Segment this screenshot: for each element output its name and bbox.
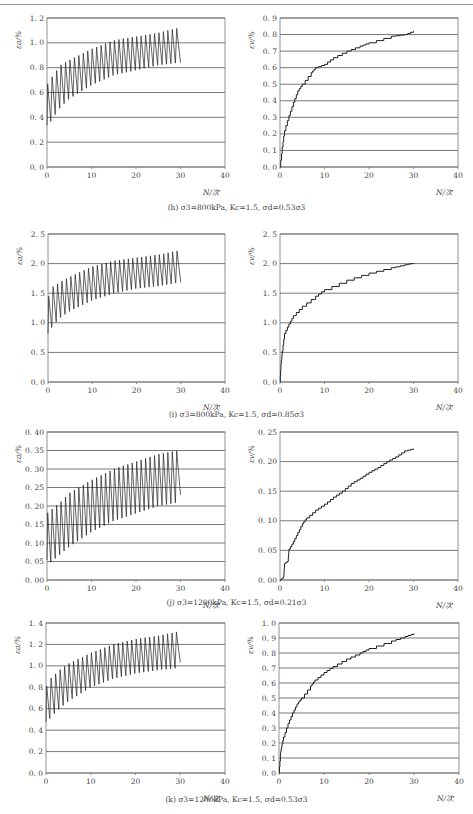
y-axis-label: εv/%: [247, 247, 256, 265]
y-axis-label: εa/%: [14, 31, 23, 49]
y-tick-label: 1. 0: [263, 318, 278, 327]
y-tick-label: 0. 5: [262, 694, 277, 703]
y-tick-label: 2. 5: [31, 230, 46, 239]
y-tick-label: 0. 20: [25, 502, 44, 511]
y-tick-label: 2. 0: [263, 259, 278, 268]
y-tick-label: 0. 05: [258, 546, 277, 555]
y-tick-label: 0. 1: [262, 754, 276, 763]
y-axis-label: εv/%: [247, 31, 256, 49]
x-tick-label: 0: [278, 386, 283, 395]
y-tick-label: 1. 0: [29, 661, 44, 670]
y-tick-label: 0. 05: [25, 557, 44, 566]
x-tick-label: 20: [131, 171, 141, 180]
plot-frame: [46, 623, 225, 773]
y-tick-label: 0. 10: [25, 539, 44, 548]
chart-k-left: 0. 00. 20. 40. 60. 81. 01. 21. 401020304…: [6, 613, 239, 809]
x-tick-label: 40: [453, 584, 463, 593]
series-line: [47, 451, 181, 562]
y-tick-label: 0. 25: [25, 483, 44, 492]
series-line: [279, 634, 414, 774]
y-tick-label: 2. 0: [31, 259, 46, 268]
caption-j: (j) σ3=1200kPa, Kc=1.5, σd=0.21σ3: [0, 598, 473, 607]
y-tick-label: 0. 15: [25, 520, 44, 529]
x-axis-label: N/次: [435, 188, 454, 197]
page-header-rule: [0, 4, 473, 5]
x-tick-label: 30: [409, 777, 419, 786]
x-tick-label: 0: [278, 584, 283, 593]
y-tick-label: 0. 00: [25, 576, 44, 585]
y-tick-label: 0. 1: [263, 146, 277, 155]
plot-frame: [280, 432, 458, 580]
x-tick-label: 0: [46, 386, 51, 395]
x-tick-label: 40: [220, 777, 230, 786]
y-tick-label: 0. 6: [262, 679, 277, 688]
x-tick-label: 20: [131, 777, 141, 786]
x-tick-label: 30: [409, 171, 419, 180]
y-tick-label: 0. 8: [30, 63, 45, 72]
y-tick-label: 0. 5: [263, 348, 278, 357]
x-tick-label: 30: [409, 584, 419, 593]
x-tick-label: 30: [176, 584, 186, 593]
chart-h-right: 0. 00. 10. 20. 30. 40. 50. 60. 70. 80. 9…: [240, 8, 472, 203]
x-tick-label: 20: [132, 386, 142, 395]
y-tick-label: 1. 5: [31, 289, 46, 298]
y-tick-label: 0. 4: [263, 96, 278, 105]
x-tick-label: 0: [44, 777, 49, 786]
y-tick-label: 1. 0: [30, 38, 45, 47]
y-tick-label: 0. 4: [29, 726, 44, 735]
caption-h: (h) σ3=800kPa, Kc=1.5, σd=0.53σ3: [0, 203, 473, 212]
x-tick-label: 0: [278, 171, 283, 180]
x-tick-label: 20: [364, 171, 374, 180]
y-axis-label: εv/%: [247, 445, 256, 463]
x-tick-label: 20: [364, 386, 374, 395]
y-tick-label: 0. 4: [262, 709, 277, 718]
y-tick-label: 1. 0: [31, 318, 46, 327]
y-tick-label: 0. 5: [263, 80, 278, 89]
y-tick-label: 0. 40: [25, 428, 44, 437]
x-tick-label: 10: [87, 584, 97, 593]
y-tick-label: 0. 0: [263, 378, 278, 387]
x-tick-label: 10: [87, 171, 97, 180]
x-tick-label: 20: [364, 777, 374, 786]
chart-h-left: 0. 00. 20. 40. 60. 81. 01. 2010203040N/次…: [7, 8, 239, 203]
chart-j-left: 0. 000. 050. 100. 150. 200. 250. 300. 35…: [7, 422, 239, 616]
plot-frame: [48, 234, 225, 382]
y-tick-label: 0. 7: [262, 664, 277, 673]
y-tick-label: 0. 2: [262, 739, 277, 748]
y-tick-label: 0. 9: [263, 14, 278, 23]
y-tick-label: 0. 6: [30, 88, 45, 97]
plot-frame: [280, 18, 458, 167]
y-tick-label: 0. 8: [262, 649, 277, 658]
y-tick-label: 0. 0: [30, 163, 45, 172]
x-tick-label: 0: [45, 171, 50, 180]
x-tick-label: 40: [453, 171, 463, 180]
chart-i-left: 0. 00. 51. 01. 52. 02. 5010203040N/次εa/%: [8, 224, 239, 418]
y-tick-label: 2. 5: [263, 230, 278, 239]
x-tick-label: 40: [454, 777, 464, 786]
x-tick-label: 40: [220, 171, 230, 180]
x-tick-label: 10: [320, 386, 330, 395]
y-tick-label: 0. 8: [263, 30, 278, 39]
x-tick-label: 30: [176, 171, 186, 180]
caption-i: (i) σ3=800kPa, Kc=1.5, σd=0.85σ3: [0, 410, 473, 419]
y-tick-label: 0. 00: [258, 576, 277, 585]
y-tick-label: 0. 5: [31, 348, 46, 357]
y-tick-label: 0. 30: [25, 465, 44, 474]
x-tick-label: 20: [131, 584, 141, 593]
x-tick-label: 0: [45, 584, 50, 593]
y-tick-label: 0. 15: [258, 487, 277, 496]
y-axis-label: εa/%: [15, 247, 24, 265]
series-line: [280, 449, 414, 580]
x-tick-label: 10: [320, 584, 330, 593]
x-tick-label: 10: [87, 386, 97, 395]
y-tick-label: 0. 7: [263, 47, 278, 56]
x-tick-label: 0: [277, 777, 282, 786]
y-tick-label: 0. 20: [258, 457, 277, 466]
y-tick-label: 0. 8: [29, 683, 44, 692]
y-tick-label: 0. 0: [263, 163, 278, 172]
y-axis-label: εa/%: [13, 636, 22, 654]
y-tick-label: 0. 10: [258, 516, 277, 525]
caption-k: (k) σ3=1200kPa, Kc=1.5, σd=0.53σ3: [0, 795, 473, 804]
y-tick-label: 0. 4: [30, 113, 45, 122]
y-tick-label: 0. 9: [262, 634, 277, 643]
